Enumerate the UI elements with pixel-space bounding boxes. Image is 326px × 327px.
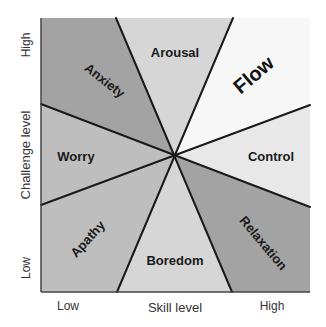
y-axis-title: Challenge level bbox=[18, 110, 33, 199]
x-axis-title: Skill level bbox=[148, 300, 202, 315]
label-worry: Worry bbox=[57, 149, 95, 164]
label-control: Control bbox=[248, 149, 294, 164]
x-axis-high-label: High bbox=[260, 299, 285, 313]
y-axis-low-label: Low bbox=[19, 257, 33, 279]
x-axis-low-label: Low bbox=[57, 299, 79, 313]
label-boredom: Boredom bbox=[146, 253, 203, 268]
label-arousal: Arousal bbox=[151, 45, 199, 60]
flow-diagram: Anxiety Arousal Flow Control Relaxation … bbox=[0, 0, 326, 327]
y-axis-high-label: High bbox=[19, 33, 33, 58]
